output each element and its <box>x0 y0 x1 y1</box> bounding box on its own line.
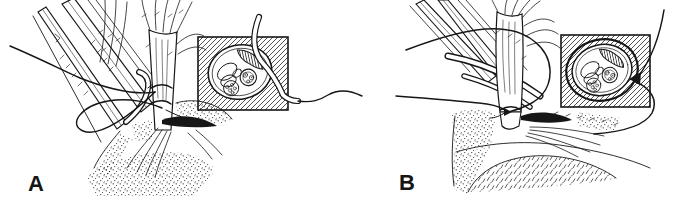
incision-tissue <box>452 110 650 195</box>
inset-cross-section-box <box>198 17 362 110</box>
panel-a-label: A <box>28 171 44 196</box>
panel-b <box>396 0 664 194</box>
surgical-clamp <box>33 0 160 142</box>
panel-a <box>10 0 362 196</box>
panel-b-label: B <box>399 170 415 195</box>
inset-cross-section-box <box>560 10 664 134</box>
figure-illustration: A B <box>0 0 675 203</box>
suture-tail <box>298 91 362 102</box>
surgical-technique-figure: A B <box>0 0 675 203</box>
